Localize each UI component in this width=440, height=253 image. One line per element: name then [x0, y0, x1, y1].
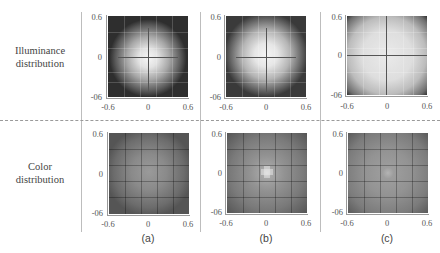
x-tick-left: -0.6: [96, 102, 120, 112]
x-tick-left: -0.6: [96, 219, 120, 229]
y-tick-mid: 0: [201, 52, 221, 62]
caption-c: (c): [372, 232, 402, 244]
caption-a: (a): [133, 232, 163, 244]
x-tick-left: -0.6: [214, 102, 238, 112]
x-tick-mid: 0: [254, 102, 278, 112]
x-tick-right: 0.6: [294, 218, 318, 228]
y-tick-bottom: -06: [323, 207, 343, 217]
column-divider-left: [81, 12, 82, 232]
crosshair-vertical: [386, 16, 387, 95]
x-tick-right: 0.6: [176, 102, 200, 112]
x-tick-left: -0.6: [335, 218, 359, 228]
row-label-illuminance-line2: distribution: [0, 57, 80, 70]
column-divider-bc: [320, 12, 321, 232]
y-tick-top: 0.6: [323, 129, 343, 139]
x-tick-right: 0.6: [176, 219, 200, 229]
row-label-color-line1: Color: [0, 160, 80, 173]
x-tick-right: 0.6: [415, 218, 439, 228]
x-tick-mid: 0: [375, 218, 399, 228]
heatmap-color-a: [109, 133, 189, 214]
heatmap-illuminance-b: [226, 16, 306, 97]
heatmap-illuminance-c: [347, 16, 427, 95]
y-tick-bottom: -06: [83, 208, 103, 218]
column-divider-ab: [200, 12, 201, 232]
y-tick-top: 0.6: [82, 12, 102, 22]
y-tick-top: 0.6: [202, 129, 222, 139]
y-tick-top: 0.6: [201, 12, 221, 22]
heatmap-illuminance-a: [108, 16, 188, 97]
y-tick-top: 0.6: [83, 129, 103, 139]
x-tick-left: -0.6: [214, 218, 238, 228]
x-tick-mid: 0: [254, 218, 278, 228]
y-tick-mid: 0: [323, 168, 343, 178]
x-tick-mid: 0: [136, 102, 160, 112]
y-tick-bottom: -06: [202, 207, 222, 217]
row-label-illuminance: Illuminance distribution: [0, 44, 80, 70]
x-tick-right: 0.6: [415, 101, 439, 111]
crosshair-vertical: [266, 28, 267, 92]
row-separator-dashed: [0, 120, 440, 121]
row-label-illuminance-line1: Illuminance: [0, 44, 80, 57]
heatmap-color-c: [348, 133, 428, 213]
row-label-color: Color distribution: [0, 160, 80, 186]
y-tick-bottom: -06: [201, 92, 221, 102]
crosshair-vertical: [148, 28, 149, 92]
y-tick-mid: 0: [83, 169, 103, 179]
heatmap-color-b: [227, 133, 307, 213]
y-tick-mid: 0: [202, 168, 222, 178]
y-tick-top: 0.6: [322, 12, 342, 22]
x-tick-left: -0.6: [335, 101, 359, 111]
y-tick-bottom: -06: [322, 90, 342, 100]
y-tick-mid: 0: [322, 50, 342, 60]
x-tick-right: 0.6: [294, 102, 318, 112]
y-tick-mid: 0: [82, 52, 102, 62]
y-tick-bottom: -06: [82, 92, 102, 102]
center-bright-cross: [261, 169, 273, 175]
crosshair-horizontal: [347, 55, 427, 56]
row-label-color-line2: distribution: [0, 173, 80, 186]
caption-b: (b): [251, 232, 281, 244]
x-tick-mid: 0: [375, 101, 399, 111]
x-tick-mid: 0: [136, 219, 160, 229]
